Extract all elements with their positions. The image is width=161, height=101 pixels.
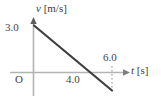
x-axis-unit: [s] (137, 64, 149, 76)
origin-label: O (15, 74, 23, 85)
y-axis-arrow-icon (30, 17, 36, 24)
x-axis-arrow-icon (123, 69, 130, 75)
y-axis-label: v [m/s] (36, 3, 67, 14)
x-axis-symbol: t (131, 64, 134, 76)
x-tick-label-4-0: 4.0 (66, 74, 80, 85)
x-axis-label: t [s] (131, 65, 148, 76)
y-axis-symbol: v (36, 2, 41, 14)
velocity-time-graph: v [m/s] t [s] 3.0 4.0 6.0 O (0, 0, 161, 101)
x-tick-label-6-0: 6.0 (103, 52, 117, 63)
y-tick-label-3-0: 3.0 (5, 22, 19, 33)
y-axis-unit: [m/s] (44, 2, 67, 14)
plot-canvas (0, 0, 161, 101)
